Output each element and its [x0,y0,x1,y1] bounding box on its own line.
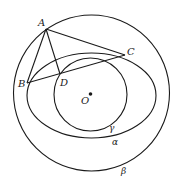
ellipse-alpha [27,53,156,138]
triangle-segments [27,29,125,83]
center-point-O [89,92,93,96]
segment-AD [46,29,60,74]
segment-AC [46,29,125,55]
label-A: A [37,17,45,28]
label-O: O [81,95,89,106]
diagram-canvas: A B C D O γ α β [0,0,178,186]
label-B: B [17,78,25,89]
label-D: D [59,77,68,88]
label-C: C [127,46,135,57]
label-gamma: γ [109,123,115,133]
label-beta: β [120,166,126,176]
label-alpha: α [112,137,118,147]
geometry-diagram: A B C D O γ α β [0,0,178,186]
